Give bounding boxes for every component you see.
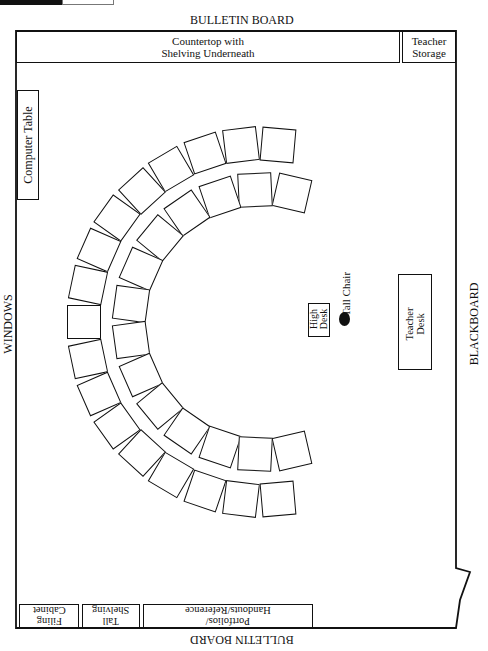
student-desk-outer	[222, 480, 260, 518]
filing-cabinet-label-line2: Cabinet	[33, 605, 66, 616]
tall-shelving-label-line2: Shelving	[92, 605, 129, 616]
teacher-desk-label-line1: Teacher	[404, 307, 415, 340]
filing-cabinet-label-line1: Filing	[36, 616, 61, 627]
portfolios-handouts-reference: Portfolios/ Handouts/Reference	[143, 604, 313, 628]
student-desk-outer	[259, 126, 296, 163]
teacher-desk-label-line2: Desk	[415, 313, 426, 335]
portfolios-label: Portfolios/ Handouts/Reference	[185, 605, 271, 627]
high-desk: High Desk	[308, 303, 330, 337]
teacher-desk-label: Teacher Desk	[404, 294, 426, 354]
student-desk-outer	[222, 126, 260, 164]
teacher-storage: Teacher Storage	[402, 31, 456, 63]
student-desk-outer	[68, 338, 108, 378]
computer-table-label: Computer Table	[22, 100, 34, 190]
teacher-storage-label-line2: Storage	[412, 47, 446, 59]
student-desk-outer	[68, 265, 108, 305]
student-desk-inner	[271, 430, 312, 471]
portfolios-label-line2: Handouts/Reference	[185, 605, 271, 616]
teacher-desk: Teacher Desk	[398, 274, 432, 370]
portfolios-label-line1: Portfolios/	[206, 616, 250, 627]
student-desk-inner	[112, 285, 150, 323]
tall-chair-label: Tall Chair	[340, 270, 352, 318]
high-desk-label-line2: Desk	[318, 309, 329, 330]
countertop-label-line1: Countertop with	[172, 35, 244, 47]
computer-table: Computer Table	[17, 90, 39, 200]
tall-shelving: Tall Shelving	[82, 604, 140, 628]
student-desk-inner	[238, 436, 274, 472]
student-desk-inner	[238, 172, 274, 208]
teacher-storage-label-line1: Teacher	[412, 35, 447, 47]
student-desk-outer	[67, 305, 101, 339]
tall-shelving-label: Tall Shelving	[92, 605, 129, 627]
filing-cabinet-label: Filing Cabinet	[33, 605, 66, 627]
high-desk-label: High Desk	[309, 299, 329, 339]
filing-cabinet: Filing Cabinet	[19, 604, 79, 628]
countertop-shelving: Countertop with Shelving Underneath	[16, 31, 400, 63]
countertop-label-line2: Shelving Underneath	[161, 47, 254, 59]
tall-shelving-label-line1: Tall	[103, 616, 119, 627]
student-desk-outer	[259, 481, 296, 518]
